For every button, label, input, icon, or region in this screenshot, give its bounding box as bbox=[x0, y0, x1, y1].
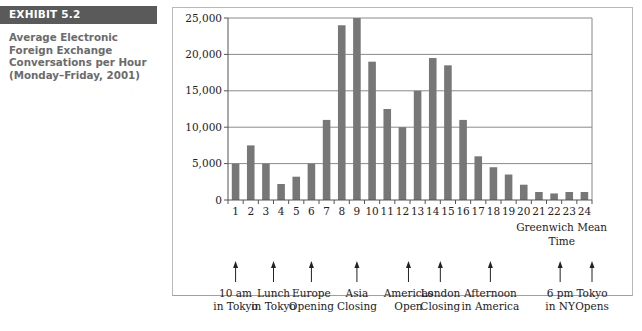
bar bbox=[262, 164, 270, 200]
x-axis-title: Time bbox=[548, 235, 575, 247]
bar bbox=[490, 167, 498, 200]
y-tick-label: 10,000 bbox=[185, 121, 222, 133]
x-tick-label: 20 bbox=[517, 205, 530, 217]
annotation-label: Asia bbox=[345, 287, 369, 299]
bar bbox=[338, 25, 346, 200]
x-tick-label: 5 bbox=[293, 205, 300, 217]
x-tick-label: 14 bbox=[426, 205, 440, 217]
bar bbox=[399, 127, 407, 200]
annotation-label: Closing bbox=[420, 300, 460, 312]
x-tick-label: 4 bbox=[278, 205, 285, 217]
y-tick-label: 20,000 bbox=[185, 48, 222, 60]
bar bbox=[323, 120, 331, 200]
arrow-up-icon bbox=[354, 261, 359, 268]
x-tick-label: 11 bbox=[381, 205, 394, 217]
bar bbox=[232, 164, 240, 200]
arrow-up-icon bbox=[271, 261, 276, 268]
x-tick-label: 6 bbox=[308, 205, 315, 217]
bar bbox=[247, 145, 255, 200]
x-tick-label: 19 bbox=[502, 205, 515, 217]
y-tick-label: 5,000 bbox=[192, 157, 222, 169]
annotation-label: Europe bbox=[292, 287, 331, 299]
bar bbox=[368, 62, 376, 200]
arrow-up-icon bbox=[233, 261, 238, 268]
arrow-up-icon bbox=[406, 261, 411, 268]
arrow-up-icon bbox=[488, 261, 493, 268]
y-tick-label: 15,000 bbox=[185, 84, 222, 96]
x-tick-label: 8 bbox=[338, 205, 345, 217]
bar bbox=[505, 175, 513, 200]
bar bbox=[444, 65, 452, 200]
annotation-label: in NY bbox=[545, 300, 576, 312]
x-tick-label: 22 bbox=[547, 205, 560, 217]
arrow-up-icon bbox=[558, 261, 563, 268]
bar bbox=[535, 192, 543, 200]
bar bbox=[520, 185, 528, 200]
bar bbox=[277, 184, 285, 200]
bar bbox=[353, 18, 361, 200]
bar-chart: 05,00010,00015,00020,00025,0001234567891… bbox=[0, 0, 642, 331]
x-tick-label: 24 bbox=[578, 205, 592, 217]
bar bbox=[292, 177, 300, 200]
bar bbox=[308, 164, 316, 200]
annotation-label: Open bbox=[394, 300, 423, 312]
arrow-up-icon bbox=[590, 261, 595, 268]
x-axis-title: Greenwich Mean bbox=[516, 221, 607, 233]
x-tick-label: 2 bbox=[247, 205, 254, 217]
annotation-label: Afternoon bbox=[463, 287, 517, 299]
annotation-label: Tokyo bbox=[576, 287, 607, 299]
x-tick-label: 17 bbox=[472, 205, 485, 217]
x-tick-label: 13 bbox=[411, 205, 424, 217]
y-tick-label: 0 bbox=[215, 194, 222, 206]
bar bbox=[474, 156, 482, 200]
bar bbox=[550, 193, 558, 200]
x-tick-label: 3 bbox=[263, 205, 270, 217]
x-tick-label: 12 bbox=[396, 205, 409, 217]
bar bbox=[429, 58, 437, 200]
bar bbox=[565, 192, 573, 200]
bar bbox=[383, 109, 391, 200]
annotation-label: Opens bbox=[575, 300, 609, 312]
annotation-label: Opening bbox=[289, 300, 334, 312]
x-tick-label: 7 bbox=[323, 205, 330, 217]
annotation-label: London bbox=[420, 287, 460, 299]
x-tick-label: 9 bbox=[354, 205, 361, 217]
arrow-up-icon bbox=[438, 261, 443, 268]
bar bbox=[581, 192, 589, 200]
annotation-label: in America bbox=[462, 300, 520, 312]
x-tick-label: 10 bbox=[365, 205, 378, 217]
x-tick-label: 16 bbox=[456, 205, 470, 217]
bar bbox=[414, 91, 422, 200]
bar bbox=[459, 120, 467, 200]
annotation-label: 6 pm bbox=[547, 287, 574, 299]
x-tick-label: 23 bbox=[563, 205, 576, 217]
x-tick-label: 1 bbox=[232, 205, 239, 217]
arrow-up-icon bbox=[309, 261, 314, 268]
annotation-label: 10 am bbox=[219, 287, 252, 299]
x-tick-label: 21 bbox=[532, 205, 545, 217]
annotation-label: Closing bbox=[337, 300, 377, 312]
annotation-label: Lunch bbox=[257, 287, 290, 299]
x-tick-label: 15 bbox=[441, 205, 454, 217]
x-tick-label: 18 bbox=[487, 205, 500, 217]
y-tick-label: 25,000 bbox=[185, 12, 222, 24]
